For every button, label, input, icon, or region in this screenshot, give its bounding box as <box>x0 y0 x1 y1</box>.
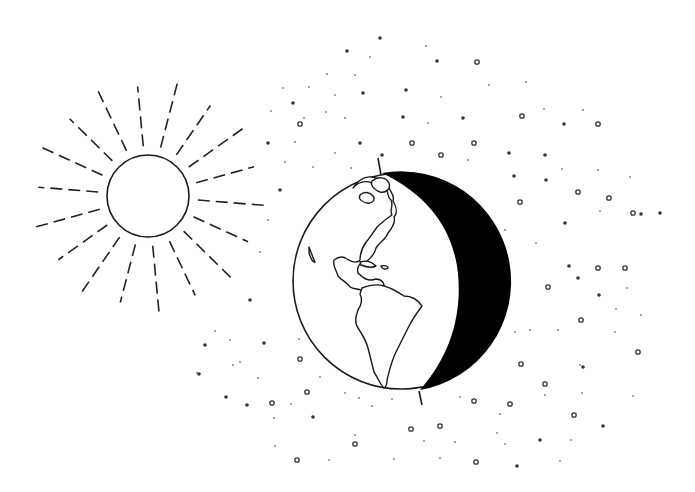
star-dot <box>369 56 371 58</box>
sun-ray <box>97 89 126 150</box>
star-dot <box>607 196 611 200</box>
star-dot <box>262 341 266 345</box>
sun-ray <box>81 237 120 293</box>
star-dot <box>519 362 523 366</box>
star-dot <box>572 413 576 417</box>
star-dot <box>515 464 519 468</box>
star-dot <box>245 403 249 407</box>
star-dot <box>543 153 547 157</box>
star-dot <box>615 308 617 310</box>
sun-ray <box>41 147 103 175</box>
star-dot <box>496 432 498 434</box>
star-dot <box>631 211 635 215</box>
star-dot <box>404 88 408 92</box>
star-dot <box>303 117 305 119</box>
star-dot <box>438 424 442 428</box>
star-dot <box>328 459 330 461</box>
star-dot <box>270 110 272 112</box>
star-dot <box>423 440 425 442</box>
star-dot <box>232 364 234 366</box>
star-dot <box>358 397 360 399</box>
star-dot <box>273 417 275 419</box>
star-dot <box>632 395 634 397</box>
star-dot <box>334 94 336 96</box>
star-dot <box>597 293 601 297</box>
star-dot <box>401 115 405 119</box>
star-dot <box>639 212 643 216</box>
star-dot <box>311 415 315 419</box>
star-dot <box>623 266 627 270</box>
star-dot <box>596 122 600 126</box>
star-dot <box>570 439 572 441</box>
star-dot <box>514 331 516 333</box>
star-dot <box>581 392 583 394</box>
star-dot <box>224 395 228 399</box>
star-dot <box>305 390 309 394</box>
star-dot <box>626 287 628 289</box>
star-dot <box>461 116 465 120</box>
sun-ray <box>38 187 98 192</box>
sun-ray <box>176 105 210 154</box>
star-dot <box>640 314 642 316</box>
star-dot <box>344 117 346 119</box>
star-dot <box>581 365 585 369</box>
star-dot <box>529 329 531 331</box>
star-dot <box>563 221 567 225</box>
star-dot <box>488 84 490 86</box>
sun-ray <box>189 128 244 167</box>
star-dot <box>334 152 336 154</box>
sun-ray <box>58 225 107 260</box>
star-dot <box>544 178 548 182</box>
star-dot <box>353 442 357 446</box>
star-dot <box>561 168 563 170</box>
star-dot <box>267 219 269 221</box>
sun-ray <box>196 167 254 183</box>
star-dot <box>475 60 479 64</box>
earth-axis-south <box>419 391 422 405</box>
star-dot <box>507 151 511 155</box>
sun-ray <box>34 209 100 227</box>
star-dot <box>197 372 201 376</box>
star-dot <box>239 361 241 363</box>
star-dot <box>508 402 512 406</box>
star-dot <box>597 169 599 171</box>
star-dot <box>474 460 478 464</box>
star-dot <box>344 392 346 394</box>
star-dot <box>378 36 382 40</box>
star-dot <box>229 339 231 341</box>
star-dot <box>257 377 259 379</box>
star-dot <box>579 318 583 322</box>
star-dot <box>214 330 216 332</box>
sun-icon <box>34 82 265 314</box>
sun-ray <box>184 231 232 279</box>
star-dot <box>278 188 282 192</box>
star-dot <box>629 176 631 178</box>
sun-ray <box>193 217 248 242</box>
earth-globe-icon <box>293 158 511 405</box>
star-dot <box>472 141 476 145</box>
star-dot <box>559 460 561 462</box>
sun-ray <box>169 241 195 295</box>
star-dot <box>274 445 276 447</box>
star-dot <box>512 174 516 178</box>
star-dot <box>319 376 321 378</box>
star-dot <box>435 59 439 63</box>
star-dot <box>294 141 296 143</box>
star-dot <box>393 458 395 460</box>
star-dot <box>535 242 537 244</box>
star-dot <box>472 399 476 403</box>
sun-ray <box>198 200 266 205</box>
star-dot <box>499 413 501 415</box>
star-dot <box>259 251 261 253</box>
star-dot <box>425 45 427 47</box>
star-dot <box>270 401 274 405</box>
star-dot <box>562 122 566 126</box>
star-dot <box>427 122 429 124</box>
star-dot <box>439 457 441 459</box>
star-dot <box>504 229 506 231</box>
hudson-bay-islands <box>359 192 374 203</box>
star-dot <box>576 190 580 194</box>
star-dot <box>282 87 284 89</box>
star-dot <box>614 331 616 333</box>
star-dot <box>298 338 300 340</box>
